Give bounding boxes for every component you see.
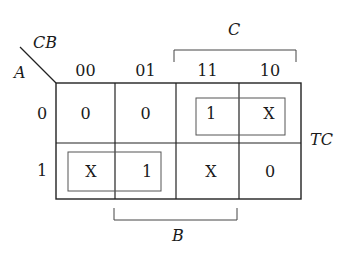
col-variable-label: CB <box>33 35 57 51</box>
col-header-10: 10 <box>239 60 301 80</box>
cell-r0-c11: 1 <box>196 83 226 143</box>
col-header-11: 11 <box>176 60 239 80</box>
col-header-01: 01 <box>115 60 176 80</box>
b-bracket-label: B <box>172 228 184 244</box>
cell-r0-c10: X <box>254 83 284 143</box>
cell-r0-c00: 0 <box>56 83 115 143</box>
cell-r0-c01: 0 <box>115 83 176 143</box>
row-variable-label: A <box>14 65 26 81</box>
c-bracket-label: C <box>228 22 240 38</box>
b-bracket <box>114 208 237 220</box>
row-header-0: 0 <box>32 103 52 123</box>
cell-r1-c10: 0 <box>239 143 301 199</box>
col-header-00: 00 <box>56 60 115 80</box>
cell-r1-c00: X <box>76 143 106 199</box>
cell-r1-c01: 1 <box>132 143 162 199</box>
row-header-1: 1 <box>32 160 52 180</box>
cell-r1-c11: X <box>196 143 226 199</box>
output-label: TC <box>310 132 333 148</box>
